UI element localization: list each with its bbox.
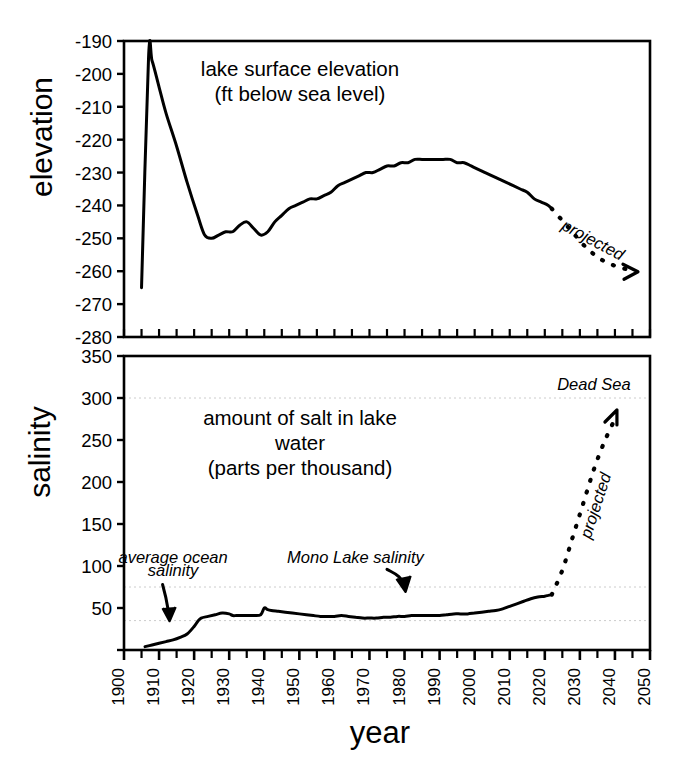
annotation-mono-lake-salinity: Mono Lake salinity <box>287 548 425 566</box>
panel-title-line: (parts per thousand) <box>208 456 393 479</box>
y-tick-label: -220 <box>75 130 112 151</box>
salinity-panel: 50100150200250300350amount of salt in la… <box>81 346 650 650</box>
x-tick-label: 1930 <box>214 668 233 706</box>
panel-title-line: lake surface elevation <box>201 57 399 80</box>
series-projected-salinity <box>552 419 615 595</box>
x-tick-label: 2010 <box>495 668 514 706</box>
figure-container: elevation salinity year -190-200-210-220… <box>0 0 683 777</box>
panel-title-line: (ft below sea level) <box>215 82 386 105</box>
y-tick-label: -250 <box>75 228 112 249</box>
x-axis-label: year <box>300 715 460 751</box>
y-tick-label: -190 <box>75 31 112 52</box>
elevation-axis-label: elevation <box>25 37 59 237</box>
x-tick-label: 1940 <box>249 668 268 706</box>
y-tick-label: 350 <box>81 346 112 367</box>
y-tick-label: 200 <box>81 472 112 493</box>
x-tick-label: 2030 <box>565 668 584 706</box>
x-tick-label: 1970 <box>354 668 373 706</box>
panel-title-line: water <box>274 431 325 454</box>
y-tick-label: 300 <box>81 388 112 409</box>
panel-title-line: amount of salt in lake <box>203 406 397 429</box>
x-tick-label: 2050 <box>635 668 654 706</box>
y-tick-label: 50 <box>91 598 112 619</box>
y-tick-label: -240 <box>75 195 112 216</box>
arrowhead-projected-elevation <box>623 264 638 279</box>
y-tick-label: -260 <box>75 261 112 282</box>
x-tick-label: 1990 <box>425 668 444 706</box>
annotation-salinity: salinity <box>148 561 200 579</box>
y-tick-label: -210 <box>75 97 112 118</box>
x-tick-label: 2040 <box>600 668 619 706</box>
y-tick-label: 150 <box>81 514 112 535</box>
x-tick-label: 2020 <box>530 668 549 706</box>
y-tick-label: 100 <box>81 556 112 577</box>
x-tick-label: 1900 <box>109 668 128 706</box>
plot-frame <box>124 41 650 337</box>
annotation-dead-sea: Dead Sea <box>557 375 630 393</box>
x-tick-label: 1950 <box>284 668 303 706</box>
x-tick-label: 1910 <box>144 668 163 706</box>
x-tick-label: 1960 <box>319 668 338 706</box>
x-tick-label: 2000 <box>460 668 479 706</box>
y-tick-label: -270 <box>75 294 112 315</box>
salinity-axis-label: salinity <box>23 352 57 552</box>
y-tick-label: -200 <box>75 64 112 85</box>
x-tick-label: 1980 <box>390 668 409 706</box>
y-tick-label: -280 <box>75 327 112 348</box>
arrowhead-average-ocean-salinity <box>163 607 176 621</box>
plot-frame <box>124 356 650 650</box>
y-tick-label: 250 <box>81 430 112 451</box>
y-tick-label: -230 <box>75 163 112 184</box>
annotation-projected: projected <box>558 215 628 264</box>
x-tick-label: 1920 <box>179 668 198 706</box>
chart-svg: -190-200-210-220-230-240-250-260-270-280… <box>0 0 683 777</box>
elevation-panel: -190-200-210-220-230-240-250-260-270-280… <box>75 31 650 348</box>
x-axis: 1900191019201930194019501960197019801990… <box>109 650 654 706</box>
